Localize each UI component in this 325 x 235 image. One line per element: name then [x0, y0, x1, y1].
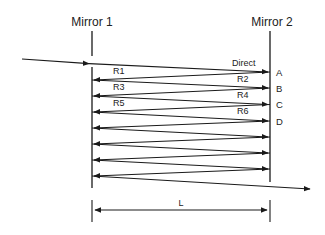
mirror-2-label: Mirror 2 — [251, 15, 293, 29]
label-r5: R5 — [113, 98, 125, 108]
multipath-reflection-diagram: Mirror 1 Mirror 2 — [0, 0, 325, 235]
label-direct: Direct — [232, 58, 256, 68]
distance-dimension: L — [92, 198, 270, 222]
point-d: D — [276, 116, 283, 127]
label-r4: R4 — [237, 90, 249, 100]
point-a: A — [276, 67, 283, 78]
mirror-1-label: Mirror 1 — [71, 15, 113, 29]
label-r3: R3 — [113, 82, 125, 92]
label-r1: R1 — [113, 66, 125, 76]
point-c: C — [276, 99, 283, 110]
label-r6: R6 — [237, 106, 249, 116]
exit-ray — [92, 176, 310, 189]
point-b: B — [276, 83, 282, 94]
label-r2: R2 — [237, 74, 249, 84]
distance-label: L — [178, 198, 183, 208]
